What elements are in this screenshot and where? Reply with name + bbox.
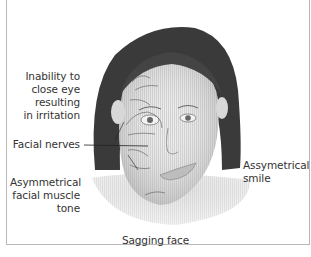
label-line: facial muscle [10,189,80,202]
label-line: close eye [10,83,80,96]
label-line: resulting [10,96,80,109]
label-line: Assymetrical [243,159,311,172]
label-eye-irritation: Inability to close eye resulting in irri… [10,70,80,122]
label-line: Inability to [10,70,80,83]
label-line: Asymmetrical [10,176,80,189]
label-muscle-tone: Asymmetrical facial muscle tone [10,176,80,215]
caption: Sagging face [0,234,311,247]
face-illustration [0,0,311,257]
label-line: in irritation [10,109,80,122]
label-smile: Assymetrical smile [243,159,311,185]
label-facial-nerves: Facial nerves [10,138,80,151]
label-line: tone [10,202,80,215]
label-line: smile [243,172,311,185]
